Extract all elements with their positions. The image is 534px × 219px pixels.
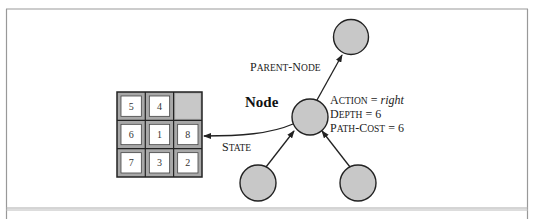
- node-label: Node: [245, 94, 279, 110]
- tile-number: 4: [157, 101, 162, 112]
- state-arrow: [204, 124, 293, 136]
- node-fields: ACTION = right DEPTH = 6 PATH-COST = 6: [330, 93, 404, 135]
- blank-tile: [175, 94, 200, 119]
- search-tree-node-diagram: 54618732 Node STATE PARENT-NODE ACTION =…: [0, 0, 534, 219]
- tile-number: 3: [157, 157, 162, 168]
- state-label: STATE: [222, 140, 251, 154]
- eight-puzzle-state: 54618732: [117, 92, 202, 177]
- parent-node-label: PARENT-NODE: [250, 60, 321, 74]
- tile-number: 5: [129, 101, 134, 112]
- tile-number: 2: [185, 157, 190, 168]
- parent-node-circle: [334, 20, 369, 55]
- child-edge-left: [266, 131, 294, 167]
- tile-number: 1: [157, 129, 162, 140]
- child-node-circle-left: [240, 165, 276, 201]
- field-action: ACTION = right: [330, 93, 404, 107]
- tile-number: 7: [129, 157, 134, 168]
- field-depth: DEPTH = 6: [330, 107, 381, 121]
- field-path-cost: PATH-COST = 6: [330, 121, 404, 135]
- child-node-circle-right: [340, 165, 376, 201]
- tile-number: 8: [185, 129, 190, 140]
- tile-number: 6: [129, 129, 134, 140]
- node-circle: [292, 99, 328, 135]
- child-edge-right: [322, 131, 350, 167]
